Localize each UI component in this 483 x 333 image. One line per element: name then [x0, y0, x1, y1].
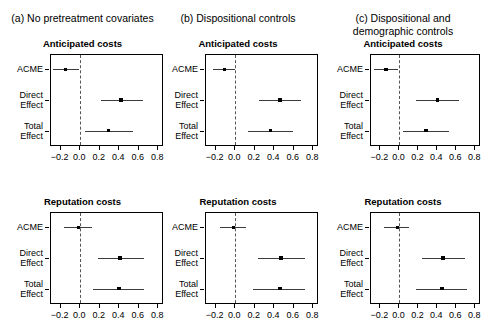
point-estimate — [223, 68, 226, 71]
y-axis-tick — [45, 69, 49, 70]
y-axis-label-direct-effect: Direct Effect — [0, 248, 43, 268]
y-axis-label-total-effect: Total Effect — [319, 121, 363, 141]
row-title-c-reputation: Reputation costs — [323, 196, 483, 207]
panel-caption-a-line1: (a) No pretreatment covariates — [11, 12, 153, 24]
panel-caption-b-line1: (b) Dispositional controls — [181, 12, 296, 24]
forest-plot-figure: (a) No pretreatment covariates (b) Dispo… — [0, 0, 483, 333]
x-axis-tick-label: 0.8 — [461, 152, 483, 162]
point-estimate — [107, 129, 110, 132]
x-axis-tick — [157, 304, 158, 308]
y-axis-label-direct-effect: Direct Effect — [319, 90, 363, 110]
x-axis-tick-label: 0.8 — [144, 310, 170, 320]
x-axis-tick — [118, 146, 119, 150]
row-title-text: Anticipated costs — [43, 38, 122, 49]
y-axis-label-total-effect: Total Effect — [319, 279, 363, 299]
y-axis-label-direct-effect: Direct Effect — [154, 248, 198, 268]
row-title-text: Reputation costs — [44, 196, 121, 207]
y-axis-label-acme: ACME — [154, 222, 198, 232]
y-axis-tick — [365, 289, 369, 290]
point-estimate — [278, 98, 281, 101]
x-axis-tick — [398, 146, 399, 150]
x-axis-tick-label: 0.8 — [299, 310, 325, 320]
x-axis-tick — [474, 304, 475, 308]
x-axis-tick — [417, 146, 418, 150]
point-estimate — [278, 287, 281, 290]
y-axis-tick — [200, 69, 204, 70]
x-axis-tick — [398, 304, 399, 308]
x-axis-tick — [99, 304, 100, 308]
y-axis-label-direct-effect: Direct Effect — [0, 90, 43, 110]
x-axis-tick-label: 0.8 — [461, 310, 483, 320]
y-axis-tick — [45, 227, 49, 228]
y-axis-tick — [365, 100, 369, 101]
x-axis-tick — [312, 304, 313, 308]
x-axis-tick-label: 0.8 — [144, 152, 170, 162]
x-axis-tick — [273, 146, 274, 150]
x-axis-tick — [293, 304, 294, 308]
panel-caption-a: (a) No pretreatment covariates — [0, 12, 165, 25]
row-title-text: Reputation costs — [364, 196, 441, 207]
x-axis-tick — [436, 304, 437, 308]
y-axis-label-direct-effect: Direct Effect — [154, 90, 198, 110]
x-axis-tick — [312, 146, 313, 150]
y-axis-tick — [200, 258, 204, 259]
y-axis-label-acme: ACME — [154, 64, 198, 74]
point-estimate — [232, 226, 235, 229]
x-axis-tick — [254, 304, 255, 308]
row-title-text: Anticipated costs — [198, 38, 277, 49]
x-axis-tick — [379, 146, 380, 150]
x-axis-tick — [157, 146, 158, 150]
x-axis-tick — [455, 146, 456, 150]
y-axis-label-total-effect: Total Effect — [0, 279, 43, 299]
y-axis-label-total-effect: Total Effect — [0, 121, 43, 141]
row-title-a-anticipated: Anticipated costs — [0, 38, 165, 49]
y-axis-tick — [45, 131, 49, 132]
point-estimate — [118, 256, 121, 259]
zero-reference-line — [399, 55, 400, 145]
y-axis-tick — [365, 227, 369, 228]
x-axis-tick-label: 0.8 — [299, 152, 325, 162]
point-estimate — [117, 287, 120, 290]
x-axis-tick — [138, 304, 139, 308]
y-axis-tick — [365, 69, 369, 70]
y-axis-tick — [45, 258, 49, 259]
row-title-c-anticipated: Anticipated costs — [323, 38, 483, 49]
y-axis-tick — [200, 289, 204, 290]
zero-reference-line — [235, 55, 236, 145]
row-title-a-reputation: Reputation costs — [0, 196, 165, 207]
y-axis-label-total-effect: Total Effect — [154, 279, 198, 299]
x-axis-tick — [60, 146, 61, 150]
point-estimate — [64, 68, 67, 71]
x-axis-tick — [234, 146, 235, 150]
x-axis-tick — [417, 304, 418, 308]
y-axis-label-acme: ACME — [319, 222, 363, 232]
y-axis-label-acme: ACME — [0, 222, 43, 232]
point-estimate — [424, 129, 427, 132]
x-axis-tick — [436, 146, 437, 150]
row-title-b-reputation: Reputation costs — [158, 196, 318, 207]
x-axis-tick — [99, 146, 100, 150]
panel-caption-c-line1: (c) Dispositional and — [323, 12, 483, 25]
point-estimate — [436, 98, 439, 101]
point-estimate — [119, 98, 122, 101]
row-title-text: Reputation costs — [199, 196, 276, 207]
y-axis-tick — [200, 131, 204, 132]
x-axis-tick — [234, 304, 235, 308]
row-title-text: Anticipated costs — [363, 38, 442, 49]
x-axis-tick — [273, 304, 274, 308]
y-axis-label-total-effect: Total Effect — [154, 121, 198, 141]
x-axis-tick — [254, 146, 255, 150]
x-axis-tick — [118, 304, 119, 308]
row-title-b-anticipated: Anticipated costs — [158, 38, 318, 49]
point-estimate — [77, 226, 80, 229]
point-estimate — [396, 226, 399, 229]
point-estimate — [279, 256, 282, 259]
x-axis-tick — [293, 146, 294, 150]
y-axis-tick — [365, 131, 369, 132]
zero-reference-line — [80, 55, 81, 145]
y-axis-tick — [45, 289, 49, 290]
x-axis-tick — [455, 304, 456, 308]
x-axis-tick — [215, 304, 216, 308]
x-axis-tick — [379, 304, 380, 308]
y-axis-tick — [200, 227, 204, 228]
